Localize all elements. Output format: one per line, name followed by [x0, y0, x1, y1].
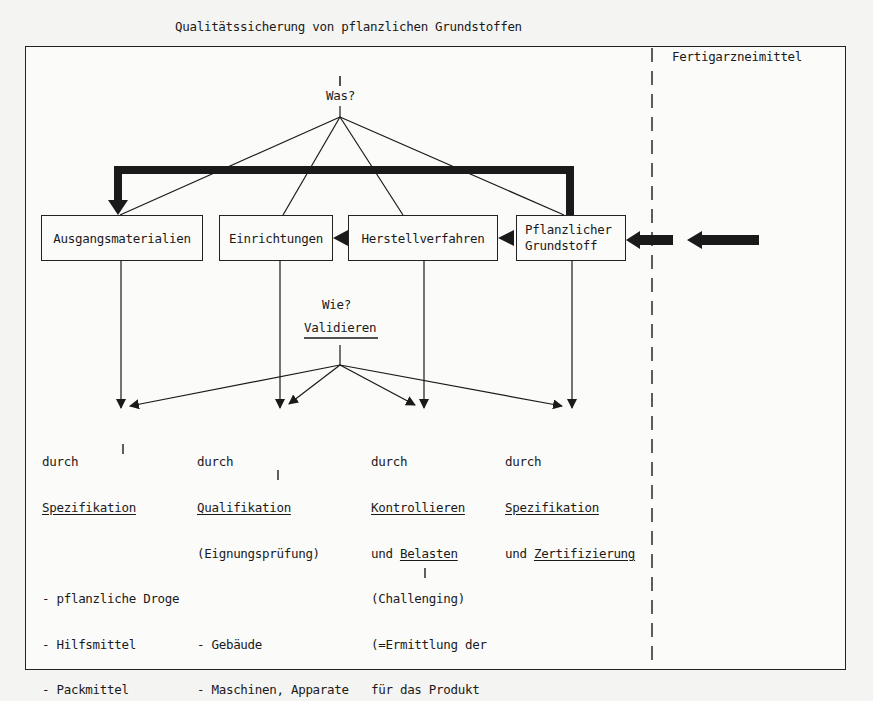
column-spezifikation: durch Spezifikation - pflanzliche Droge …	[42, 424, 179, 701]
column-method: Spezifikation	[505, 500, 635, 515]
validate-label: Validieren	[304, 320, 376, 335]
column-note-line: (=Ermittlung der	[371, 637, 516, 652]
column-zertifizierung: durch Spezifikation und Zertifizierung	[505, 424, 635, 576]
box-pflanzlicher-grundstoff: Pflanzlicher Grundstoff	[516, 215, 626, 261]
column-kontrollieren: durch Kontrollieren und Belasten (Challe…	[371, 424, 516, 701]
column-note: (Eignungsprüfung)	[197, 546, 349, 561]
box-label-line1: Pflanzlicher	[525, 222, 612, 238]
list-item: - pflanzliche Droge	[42, 591, 179, 606]
box-herstellverfahren: Herstellverfahren	[348, 215, 498, 261]
column-prefix: durch	[505, 454, 635, 469]
column-qualifikation: durch Qualifikation (Eignungsprüfung) - …	[197, 424, 349, 701]
column-method: Kontrollieren	[371, 500, 516, 515]
column-method2: Zertifizierung	[534, 546, 635, 561]
diagram-title: Qualitätssicherung von pflanzlichen Grun…	[175, 19, 522, 34]
list-item: - Maschinen, Apparate	[197, 682, 349, 697]
column-prefix: durch	[197, 454, 349, 469]
right-panel-title: Fertigarzneimittel	[672, 49, 802, 64]
list-item: - Gebäude	[197, 637, 349, 652]
box-label: Ausgangsmaterialien	[53, 231, 190, 246]
column-method: Spezifikation	[42, 500, 179, 515]
column-and-word: und	[505, 546, 534, 561]
column-and-word: und	[371, 546, 400, 561]
box-label: Einrichtungen	[229, 231, 323, 246]
list-item: - Hilfsmittel	[42, 637, 179, 652]
box-label: Herstellverfahren	[362, 231, 485, 246]
box-ausgangsmaterialien: Ausgangsmaterialien	[41, 215, 203, 261]
column-method: Qualifikation	[197, 500, 349, 515]
column-method2: Belasten	[400, 546, 458, 561]
box-einrichtungen: Einrichtungen	[219, 215, 333, 261]
list-item: - Packmittel	[42, 682, 179, 697]
question-how: Wie?	[322, 297, 351, 312]
column-note-line: für das Produkt	[371, 682, 516, 697]
question-what: Was?	[326, 88, 355, 103]
box-label-line2: Grundstoff	[525, 238, 597, 254]
column-prefix: durch	[42, 454, 179, 469]
column-prefix: durch	[371, 454, 516, 469]
column-note-line: (Challenging)	[371, 591, 516, 606]
